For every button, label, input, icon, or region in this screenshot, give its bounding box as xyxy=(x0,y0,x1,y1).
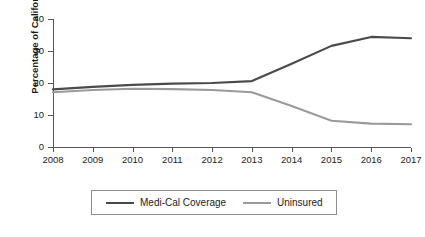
legend-swatch-icon xyxy=(106,202,134,204)
series-line-uninsured xyxy=(53,89,411,125)
line-chart: Percentage of Californians 010203040 200… xyxy=(0,0,425,237)
series-line-medi-cal-coverage xyxy=(53,37,411,89)
legend-item-medi-cal-coverage: Medi-Cal Coverage xyxy=(106,195,226,211)
legend-item-uninsured: Uninsured xyxy=(243,195,323,211)
legend-label: Medi-Cal Coverage xyxy=(140,198,226,208)
legend-label: Uninsured xyxy=(277,198,323,208)
legend-swatch-icon xyxy=(243,202,271,204)
chart-legend: Medi-Cal Coverage Uninsured xyxy=(91,190,337,215)
